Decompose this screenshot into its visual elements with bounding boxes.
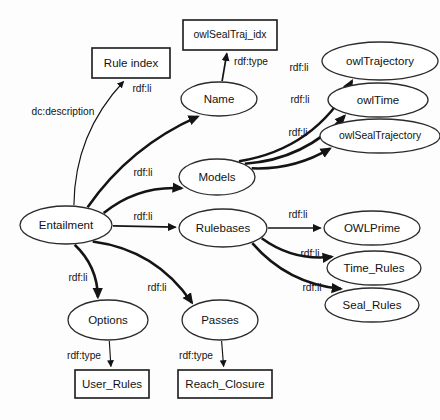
node-label-owl_time: owlTime xyxy=(357,94,399,106)
node-label-owl_seal_traj_idx: owlSealTraj_idx xyxy=(194,29,268,40)
node-user_rules[interactable]: User_Rules xyxy=(75,370,149,398)
node-name[interactable]: Name xyxy=(181,82,257,116)
node-label-owl_trajectory: owlTrajectory xyxy=(346,55,414,67)
edge-label-e12: rdf:li xyxy=(68,272,87,283)
node-label-rule_index: Rule index xyxy=(104,57,159,69)
node-label-owl_seal_trajectory: owlSealTrajectory xyxy=(339,130,422,141)
edge-passes-to-reach_closure xyxy=(222,341,224,367)
edge-label-e15: rdf:type xyxy=(179,350,213,361)
edge-label-e3: rdf:type xyxy=(234,56,268,67)
edge-name-to-owl_seal_traj_idx xyxy=(222,54,227,82)
edge-label-e2: rdf:li xyxy=(132,83,151,94)
node-owl_seal_traj_idx[interactable]: owlSealTraj_idx xyxy=(183,20,277,50)
node-label-options: Options xyxy=(88,314,128,326)
rdf-graph-diagram: Rule indexowlSealTraj_idxNameowlTrajecto… xyxy=(0,0,440,420)
node-label-entailment: Entailment xyxy=(39,219,94,231)
edge-rulebases-to-time_rules xyxy=(262,238,332,257)
node-time_rules[interactable]: Time_Rules xyxy=(327,251,421,285)
edge-options-to-user_rules xyxy=(109,341,111,367)
edge-label-e13: rdf:li xyxy=(147,282,166,293)
node-label-time_rules: Time_Rules xyxy=(344,262,405,274)
node-rulebases[interactable]: Rulebases xyxy=(179,209,267,247)
edge-label-e11: rdf:li xyxy=(302,282,321,293)
node-seal_rules[interactable]: Seal_Rules xyxy=(325,288,419,322)
node-label-user_rules: User_Rules xyxy=(82,378,142,390)
node-label-seal_rules: Seal_Rules xyxy=(343,299,402,311)
node-label-owl_prime: OWLPrime xyxy=(344,222,400,234)
node-owl_prime[interactable]: OWLPrime xyxy=(324,211,420,245)
node-label-passes: Passes xyxy=(201,314,239,326)
edge-entailment-to-rule_index xyxy=(74,82,124,206)
node-models[interactable]: Models xyxy=(179,159,255,195)
edge-label-e10: rdf:li xyxy=(300,248,319,259)
edge-label-e5: rdf:li xyxy=(289,62,308,73)
node-entailment[interactable]: Entailment xyxy=(20,206,112,244)
edge-label-e7: rdf:li xyxy=(288,127,307,138)
edge-entailment-to-rulebases xyxy=(113,226,176,227)
node-owl_time[interactable]: owlTime xyxy=(328,83,428,117)
edge-label-e14: rdf:type xyxy=(67,350,101,361)
node-options[interactable]: Options xyxy=(68,300,148,340)
edge-models-to-owl_seal_trajectory xyxy=(252,149,330,169)
edge-label-e6: rdf:li xyxy=(290,94,309,105)
node-passes[interactable]: Passes xyxy=(182,300,258,340)
graph-canvas: Rule indexowlSealTraj_idxNameowlTrajecto… xyxy=(0,0,440,420)
edge-entailment-to-models xyxy=(104,188,182,213)
node-rule_index[interactable]: Rule index xyxy=(92,48,170,78)
edge-label-e1: dc:description xyxy=(32,106,95,117)
node-label-rulebases: Rulebases xyxy=(196,222,251,234)
edge-label-e9: rdf:li xyxy=(288,209,307,220)
node-label-name: Name xyxy=(204,93,235,105)
edge-label-e8: rdf:li xyxy=(133,211,152,222)
edge-label-e4: rdf:li xyxy=(133,167,152,178)
node-owl_trajectory[interactable]: owlTrajectory xyxy=(322,42,438,80)
nodes-layer: Rule indexowlSealTraj_idxNameowlTrajecto… xyxy=(20,20,440,398)
node-label-reach_closure: Reach_Closure xyxy=(185,378,264,390)
node-reach_closure[interactable]: Reach_Closure xyxy=(178,370,272,398)
node-owl_seal_trajectory[interactable]: owlSealTrajectory xyxy=(320,119,440,153)
node-label-models: Models xyxy=(198,171,235,183)
edge-entailment-to-passes xyxy=(93,242,192,303)
